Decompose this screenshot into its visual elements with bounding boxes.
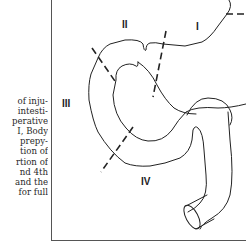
jejunum-descending — [200, 112, 232, 229]
division-line-3-4 — [101, 127, 133, 172]
region-label-3: III — [62, 98, 71, 109]
jejunum-loop — [187, 98, 232, 125]
antrum-contour — [138, 62, 196, 114]
division-line-2-3 — [92, 48, 117, 84]
region-label-4: IV — [141, 176, 151, 187]
region-label-2: II — [122, 19, 128, 30]
division-line-1-2 — [153, 31, 166, 97]
duodenum-diagram: II I III IV — [0, 0, 246, 242]
region-label-1: I — [196, 21, 199, 32]
duodenum-outer-wall — [89, 0, 231, 212]
duodenum-inner-wall — [113, 62, 246, 141]
